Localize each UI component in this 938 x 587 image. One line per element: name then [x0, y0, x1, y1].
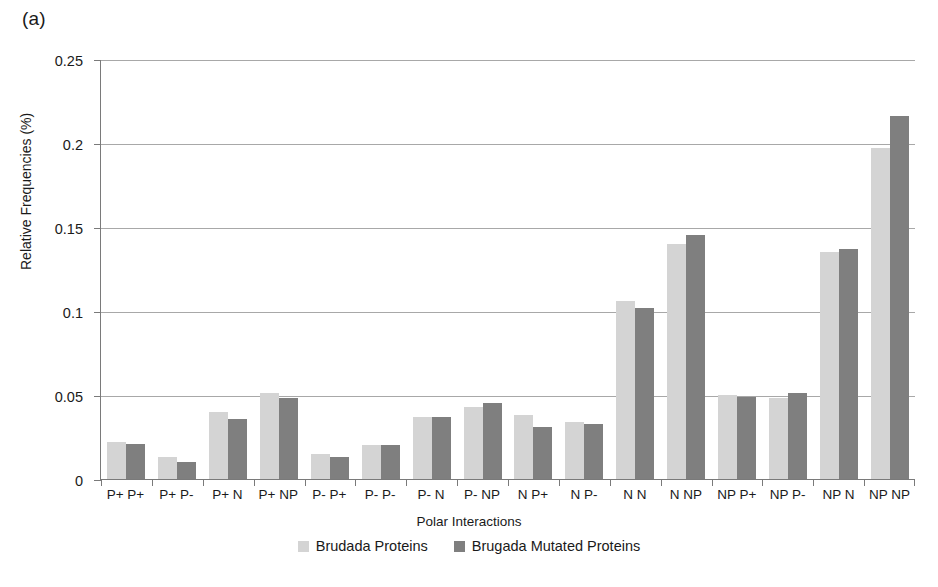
bar — [514, 415, 533, 479]
y-axis-tick: 0.2 — [94, 144, 101, 145]
y-axis-title: Relative Frequencies (%) — [18, 113, 34, 270]
y-axis-tick: 0 — [94, 480, 101, 481]
x-axis-tick — [457, 479, 458, 486]
x-axis-category-label: NP P+ — [711, 487, 762, 502]
y-axis-tick: 0.1 — [94, 312, 101, 313]
y-axis-tick-label: 0.25 — [55, 53, 83, 69]
x-axis-tick — [203, 479, 204, 486]
bar — [483, 403, 502, 479]
bar — [228, 419, 247, 479]
bar — [260, 393, 279, 479]
bar — [413, 417, 432, 479]
x-axis-category-label: N P- — [558, 487, 609, 502]
x-axis-tick — [914, 479, 915, 486]
x-axis-tick — [661, 479, 662, 486]
x-axis-category-label: P- NP — [457, 487, 508, 502]
bar — [362, 445, 381, 479]
x-axis-tick — [508, 479, 509, 486]
bar-group — [101, 60, 152, 479]
x-axis-tick — [813, 479, 814, 486]
legend-item[interactable]: Brudada Proteins — [298, 538, 428, 554]
x-axis-category-labels: P+ P+P+ P-P+ NP+ NPP- P+P- P-P- NP- NPN … — [100, 487, 915, 502]
x-axis-category-label: N N — [609, 487, 660, 502]
bar — [209, 412, 228, 479]
bar-group — [508, 60, 559, 479]
bar — [584, 424, 603, 479]
x-axis-tick — [355, 479, 356, 486]
bar — [820, 252, 839, 479]
bar — [107, 442, 126, 479]
bar-group — [762, 60, 813, 479]
bar — [126, 444, 145, 479]
bar-group — [457, 60, 508, 479]
bar — [177, 462, 196, 479]
bar — [464, 407, 483, 479]
x-axis-tick — [712, 479, 713, 486]
y-axis-tick: 0.15 — [94, 228, 101, 229]
x-axis-tick — [559, 479, 560, 486]
legend-label: Brudada Proteins — [316, 538, 428, 554]
y-axis-tick: 0.25 — [94, 60, 101, 61]
bar — [635, 308, 654, 479]
x-axis-category-label: P- N — [406, 487, 457, 502]
bar — [279, 398, 298, 479]
chart-legend: Brudada ProteinsBrugada Mutated Proteins — [0, 538, 938, 554]
x-axis-tick — [406, 479, 407, 486]
x-axis-category-label: P+ P+ — [100, 487, 151, 502]
bar-group — [305, 60, 356, 479]
bar — [381, 445, 400, 479]
x-axis-tick — [305, 479, 306, 486]
bar — [871, 148, 890, 479]
bar — [718, 395, 737, 479]
bar — [565, 422, 584, 479]
y-axis-tick-label: 0.15 — [55, 221, 83, 237]
bar — [890, 116, 909, 479]
legend-label: Brugada Mutated Proteins — [472, 538, 640, 554]
bar — [330, 457, 349, 479]
bar — [667, 244, 686, 479]
bar-group — [813, 60, 864, 479]
x-axis-category-label: P+ N — [202, 487, 253, 502]
x-axis-category-label: P+ P- — [151, 487, 202, 502]
bar-group — [152, 60, 203, 479]
y-axis-tick-label: 0.2 — [63, 137, 83, 153]
legend-swatch — [298, 541, 309, 552]
x-axis-tick — [152, 479, 153, 486]
bar — [311, 454, 330, 479]
bar — [616, 301, 635, 479]
x-axis-category-label: P- P+ — [304, 487, 355, 502]
x-axis-tick — [101, 479, 102, 486]
bar — [769, 398, 788, 479]
bar-group — [254, 60, 305, 479]
x-axis-tick — [864, 479, 865, 486]
x-axis-category-label: NP N — [813, 487, 864, 502]
bar-group — [406, 60, 457, 479]
plot-area: 0.250.20.150.10.050 — [100, 60, 915, 480]
bar — [737, 397, 756, 479]
bar-group — [610, 60, 661, 479]
bar-group — [355, 60, 406, 479]
bars-layer — [101, 60, 915, 479]
bar-group — [661, 60, 712, 479]
bar — [839, 249, 858, 479]
bar — [533, 427, 552, 479]
x-axis-category-label: NP P- — [762, 487, 813, 502]
x-axis-category-label: N NP — [660, 487, 711, 502]
y-axis-tick: 0.05 — [94, 396, 101, 397]
x-axis-title: Polar Interactions — [0, 514, 938, 529]
panel-label: (a) — [22, 8, 46, 30]
legend-swatch — [454, 541, 465, 552]
y-axis-tick-label: 0.05 — [55, 389, 83, 405]
x-axis-tick — [254, 479, 255, 486]
legend-item[interactable]: Brugada Mutated Proteins — [454, 538, 640, 554]
bar — [158, 457, 177, 479]
x-axis-category-label: NP NP — [864, 487, 915, 502]
x-axis-tick — [762, 479, 763, 486]
x-axis-category-label: P- P- — [355, 487, 406, 502]
bar-group — [559, 60, 610, 479]
y-axis-tick-label: 0.1 — [63, 305, 83, 321]
bar-group — [864, 60, 915, 479]
bar — [686, 235, 705, 479]
x-axis-tick — [610, 479, 611, 486]
bar-group — [203, 60, 254, 479]
